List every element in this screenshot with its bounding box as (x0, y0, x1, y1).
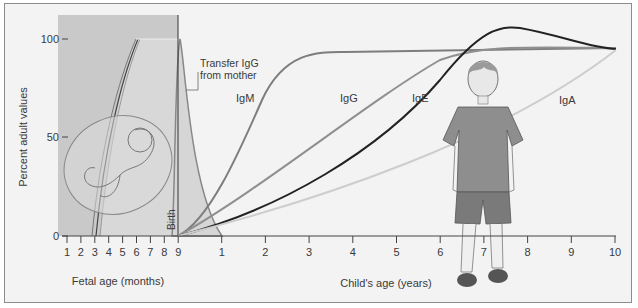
fetal-x-axis-label: Fetal age (months) (72, 275, 164, 287)
igm-label: IgM (236, 92, 254, 104)
child-x-tick: 2 (262, 246, 268, 258)
fetal-x-tick: 8 (161, 246, 167, 258)
child-x-tick: 5 (393, 246, 399, 258)
y-tick-100: 100 (41, 33, 59, 45)
y-tick-50: 50 (47, 131, 59, 143)
ige-label: IgE (412, 92, 429, 104)
child-x-tick: 3 (306, 246, 312, 258)
transfer-label-line2: from mother (200, 69, 257, 81)
iga-label: IgA (559, 94, 576, 106)
igg-label: IgG (340, 92, 358, 104)
child-x-axis-label: Child's age (years) (340, 277, 431, 289)
fetal-x-tick: 2 (78, 246, 84, 258)
child-x-ticks: 12345678910 (219, 236, 621, 258)
immunoglobulin-chart: Birth Transfer IgG from mother IgM IgG I… (0, 0, 638, 308)
fetal-x-tick: 7 (147, 246, 153, 258)
fetal-x-tick: 4 (106, 246, 112, 258)
child-x-tick: 8 (525, 246, 531, 258)
y-tick-0: 0 (53, 230, 59, 242)
child-x-tick: 4 (350, 246, 356, 258)
child-x-tick: 6 (437, 246, 443, 258)
birth-label: Birth (166, 209, 177, 230)
child-x-tick: 9 (568, 246, 574, 258)
transfer-leader-line (186, 72, 198, 90)
fetal-x-tick: 6 (133, 246, 139, 258)
fetal-x-tick: 5 (120, 246, 126, 258)
fetal-x-ticks: 123456789 (64, 236, 181, 258)
child-x-tick: 10 (609, 246, 621, 258)
child-x-tick: 1 (219, 246, 225, 258)
child-x-tick: 7 (481, 246, 487, 258)
fetal-x-tick: 3 (92, 246, 98, 258)
transfer-label-line1: Transfer IgG (200, 57, 259, 69)
fetal-x-tick: 9 (175, 246, 181, 258)
y-axis-label: Percent adult values (17, 87, 29, 187)
fetal-x-tick: 1 (64, 246, 70, 258)
